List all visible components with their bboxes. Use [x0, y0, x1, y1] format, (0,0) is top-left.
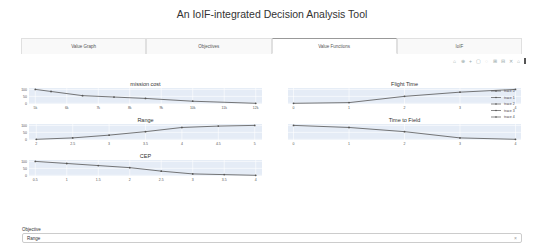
legend-item[interactable]: trace 3: [491, 109, 515, 113]
y-tick-label: 50: [23, 167, 27, 171]
data-point[interactable]: [50, 91, 52, 93]
data-point[interactable]: [145, 98, 147, 100]
plot-area[interactable]: [29, 88, 262, 104]
tab-bar: Value Graph Objectives Value Functions I…: [21, 38, 522, 54]
x-tick-label: 1.5: [96, 178, 101, 182]
subplot-title: Range: [137, 117, 153, 123]
data-point[interactable]: [459, 137, 461, 139]
x-tick-label: 4: [514, 106, 516, 110]
subplot-flight-time[interactable]: 01234Flight Time: [288, 81, 521, 110]
x-tick-label: 2.5: [159, 178, 164, 182]
pan-icon[interactable]: +: [468, 59, 473, 64]
x-tick-label: 2: [129, 178, 131, 182]
x-tick-label: 9k: [159, 106, 163, 110]
data-point[interactable]: [293, 124, 295, 126]
plotly-logo-icon[interactable]: [524, 58, 526, 64]
x-tick-label: 4.5: [216, 142, 221, 146]
tab-objectives[interactable]: Objectives: [146, 38, 271, 54]
tab-value-graph[interactable]: Value Graph: [21, 38, 146, 54]
data-point[interactable]: [34, 88, 36, 90]
x-tick-label: 2: [404, 142, 406, 146]
data-point[interactable]: [129, 167, 131, 169]
plot-modebar: ⌂ ⊕ + ▢ ◌ ⊞ ⊟ ✕ ⌂: [452, 58, 526, 64]
subplot-title: Flight Time: [391, 81, 418, 87]
subplot-range[interactable]: 22.533.544.55050100Range: [21, 117, 262, 146]
tab-value-functions[interactable]: Value Functions: [272, 38, 397, 54]
x-tick-label: 3: [459, 106, 461, 110]
data-point[interactable]: [108, 134, 110, 136]
data-point[interactable]: [145, 131, 147, 133]
data-point[interactable]: [192, 100, 194, 102]
data-point[interactable]: [72, 137, 74, 139]
objective-dropdown[interactable]: Range ×: [22, 233, 522, 243]
data-point[interactable]: [160, 170, 162, 172]
box-select-icon[interactable]: ▢: [476, 59, 481, 64]
y-tick-label: 50: [23, 131, 27, 135]
x-tick-label: 0.5: [33, 178, 38, 182]
x-tick-label: 1: [66, 178, 68, 182]
y-tick-label: 100: [21, 88, 27, 92]
data-point[interactable]: [515, 138, 517, 140]
data-point[interactable]: [66, 163, 68, 165]
camera-icon[interactable]: ⌂: [452, 59, 457, 64]
x-tick-label: 11k: [222, 106, 228, 110]
data-point[interactable]: [254, 124, 256, 126]
value-functions-figure[interactable]: 5k6k7k8k9k10k11k12k050100mission cost012…: [0, 70, 544, 200]
zoom-icon[interactable]: ⊕: [460, 59, 465, 64]
autoscale-icon[interactable]: ✕: [508, 59, 513, 64]
data-point[interactable]: [181, 127, 183, 129]
x-tick-label: 6k: [65, 106, 69, 110]
x-tick-label: 3: [459, 142, 461, 146]
x-tick-label: 4: [255, 178, 257, 182]
lasso-select-icon[interactable]: ◌: [484, 59, 489, 64]
legend-label: trace 1: [504, 96, 515, 100]
x-tick-label: 12k: [253, 106, 259, 110]
x-tick-label: 2: [35, 142, 37, 146]
data-point[interactable]: [255, 102, 257, 104]
y-tick-label: 0: [25, 174, 27, 178]
data-point[interactable]: [192, 173, 194, 175]
x-tick-label: 10k: [190, 106, 196, 110]
data-point[interactable]: [217, 125, 219, 127]
x-tick-label: 4: [181, 142, 183, 146]
plot-area[interactable]: [29, 160, 262, 176]
clear-selection-icon[interactable]: ×: [514, 235, 517, 241]
subplot-time-to-field[interactable]: 01234Time to Field: [288, 117, 521, 146]
subplot-cep[interactable]: 0.511.522.533.54050100CEP: [21, 153, 262, 182]
legend-label: trace 3: [504, 109, 515, 113]
x-tick-label: 1: [348, 142, 350, 146]
x-tick-label: 2.5: [70, 142, 75, 146]
x-tick-label: 5k: [33, 106, 37, 110]
legend-label: trace 0: [504, 89, 515, 93]
data-point[interactable]: [348, 127, 350, 129]
y-tick-label: 0: [25, 102, 27, 106]
y-tick-label: 0: [25, 138, 27, 142]
subplot-title: mission cost: [130, 81, 161, 87]
data-point[interactable]: [113, 96, 115, 98]
zoom-out-icon[interactable]: ⊟: [500, 59, 505, 64]
data-point[interactable]: [255, 174, 257, 176]
tab-ioif[interactable]: IoIF: [397, 38, 522, 54]
data-point[interactable]: [97, 165, 99, 167]
x-tick-label: 3: [192, 178, 194, 182]
zoom-in-icon[interactable]: ⊞: [492, 59, 497, 64]
legend-item[interactable]: trace 4: [491, 115, 515, 119]
data-point[interactable]: [223, 174, 225, 176]
x-tick-label: 4: [514, 142, 516, 146]
reset-axes-icon[interactable]: ⌂: [516, 59, 521, 64]
data-point[interactable]: [459, 91, 461, 93]
data-point[interactable]: [35, 138, 37, 140]
x-tick-label: 3.5: [222, 178, 227, 182]
x-tick-label: 5: [254, 142, 256, 146]
data-point[interactable]: [34, 160, 36, 162]
data-point[interactable]: [515, 88, 517, 90]
data-point[interactable]: [404, 95, 406, 97]
objective-selected-value: Range: [27, 236, 514, 241]
data-point[interactable]: [82, 95, 84, 97]
subplot-mission-cost[interactable]: 5k6k7k8k9k10k11k12k050100mission cost: [21, 81, 262, 110]
data-point[interactable]: [293, 102, 295, 104]
x-tick-label: 8k: [128, 106, 132, 110]
data-point[interactable]: [404, 131, 406, 133]
data-point[interactable]: [348, 102, 350, 104]
x-tick-label: 0: [293, 142, 295, 146]
